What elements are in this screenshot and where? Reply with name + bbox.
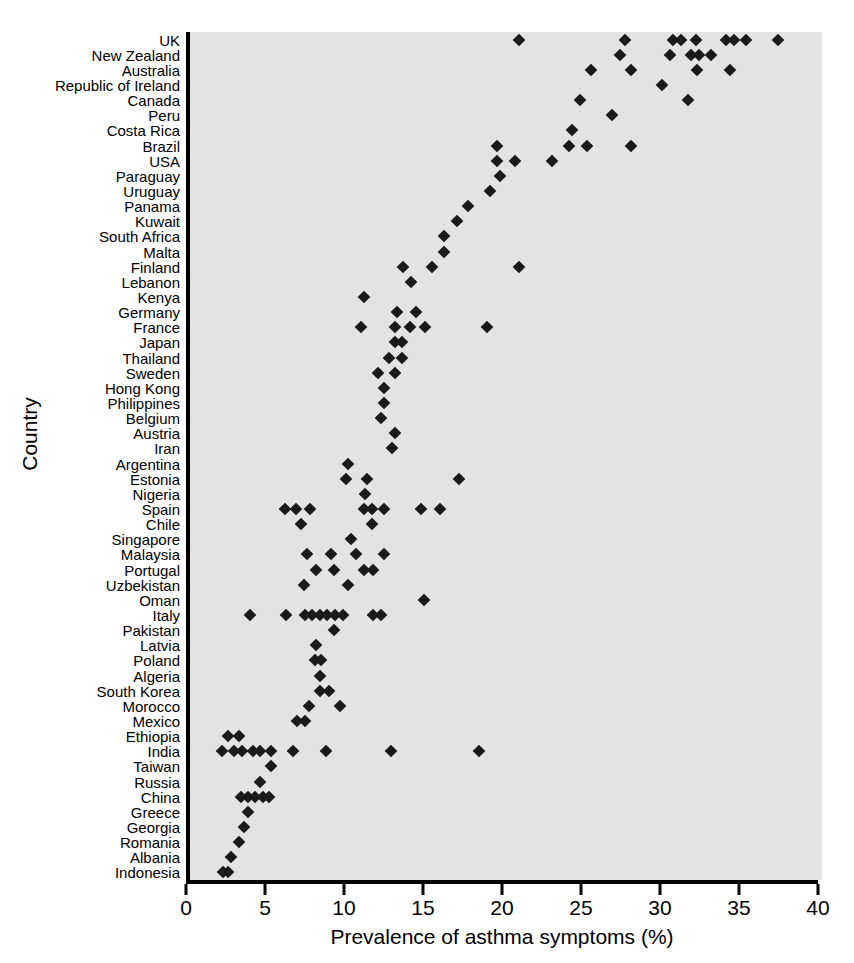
data-point	[419, 321, 432, 334]
y-axis-label: Chile	[20, 517, 180, 532]
y-axis-label: Greece	[20, 804, 180, 819]
y-axis-label: Iran	[20, 441, 180, 456]
data-point	[618, 33, 631, 46]
data-point	[563, 139, 576, 152]
y-axis-label: Poland	[20, 653, 180, 668]
data-point	[242, 805, 255, 818]
data-point	[545, 154, 558, 167]
data-point	[378, 503, 391, 516]
y-axis-label: Taiwan	[20, 759, 180, 774]
data-point	[294, 518, 307, 531]
y-axis-label: Uzbekistan	[20, 577, 180, 592]
data-point	[624, 139, 637, 152]
data-point	[365, 503, 378, 516]
scatter-chart: Country UKNew ZealandAustraliaRepublic o…	[0, 0, 854, 963]
y-axis-label: Spain	[20, 502, 180, 517]
data-point	[350, 548, 363, 561]
x-axis-label: 0	[180, 897, 192, 918]
data-point	[490, 139, 503, 152]
y-axis-label: Argentina	[20, 456, 180, 471]
data-point	[433, 503, 446, 516]
data-point	[342, 457, 355, 470]
x-axis-tick	[738, 884, 741, 895]
data-point	[299, 715, 312, 728]
x-axis-label: 25	[569, 897, 592, 918]
x-axis-tick	[580, 884, 583, 895]
data-point	[509, 154, 522, 167]
x-axis-tick	[343, 884, 346, 895]
data-point	[320, 745, 333, 758]
data-point	[337, 609, 350, 622]
data-point	[225, 851, 238, 864]
y-axis-label: Belgium	[20, 411, 180, 426]
x-axis-tick	[185, 884, 188, 895]
x-axis-label: 5	[259, 897, 271, 918]
data-point	[574, 94, 587, 107]
data-point	[386, 442, 399, 455]
y-axis-label: Portugal	[20, 562, 180, 577]
data-point	[372, 366, 385, 379]
data-point	[452, 472, 465, 485]
y-axis-label: Australia	[20, 62, 180, 77]
data-point	[566, 124, 579, 137]
data-point	[301, 548, 314, 561]
data-point	[365, 518, 378, 531]
y-axis-label: Costa Rica	[20, 123, 180, 138]
data-point	[334, 699, 347, 712]
x-axis-label: 35	[727, 897, 750, 918]
y-axis-label: Canada	[20, 93, 180, 108]
data-point	[327, 624, 340, 637]
x-axis-label: 40	[806, 897, 829, 918]
data-point	[378, 397, 391, 410]
data-point	[389, 427, 402, 440]
x-axis-tick	[264, 884, 267, 895]
data-point	[656, 79, 669, 92]
data-point	[691, 63, 704, 76]
y-axis-label: Uruguay	[20, 184, 180, 199]
y-axis-label: Republic of Ireland	[20, 78, 180, 93]
data-point	[689, 33, 702, 46]
y-axis-label: Kenya	[20, 290, 180, 305]
data-point	[389, 321, 402, 334]
y-axis-label: Austria	[20, 426, 180, 441]
y-axis-label: Malaysia	[20, 547, 180, 562]
data-point	[280, 609, 293, 622]
data-point	[624, 63, 637, 76]
data-point	[233, 730, 246, 743]
data-point	[473, 745, 486, 758]
data-point	[585, 63, 598, 76]
x-axis-tick	[817, 884, 820, 895]
data-point	[375, 609, 388, 622]
x-axis-label: 10	[332, 897, 355, 918]
data-point	[675, 33, 688, 46]
y-axis-label: India	[20, 744, 180, 759]
x-axis-label: 20	[490, 897, 513, 918]
y-axis-label: UK	[20, 32, 180, 47]
data-point	[264, 745, 277, 758]
data-point	[384, 745, 397, 758]
y-axis-label: Morocco	[20, 698, 180, 713]
data-point	[375, 412, 388, 425]
data-point	[391, 306, 404, 319]
y-axis-label: Indonesia	[20, 865, 180, 880]
y-axis-label: USA	[20, 153, 180, 168]
data-point	[397, 260, 410, 273]
y-axis-label: Albania	[20, 850, 180, 865]
data-point	[310, 563, 323, 576]
y-axis-label: Brazil	[20, 138, 180, 153]
y-axis-label: Pakistan	[20, 623, 180, 638]
data-point	[357, 291, 370, 304]
data-point	[613, 48, 626, 61]
data-point	[302, 699, 315, 712]
y-axis-label: Panama	[20, 199, 180, 214]
y-axis-label: Thailand	[20, 350, 180, 365]
data-point	[605, 109, 618, 122]
data-point	[410, 306, 423, 319]
data-point	[425, 260, 438, 273]
y-axis-label: Singapore	[20, 532, 180, 547]
y-axis-label: Georgia	[20, 820, 180, 835]
data-point	[414, 503, 427, 516]
y-axis-label: Estonia	[20, 471, 180, 486]
data-point	[289, 503, 302, 516]
data-point	[244, 609, 257, 622]
